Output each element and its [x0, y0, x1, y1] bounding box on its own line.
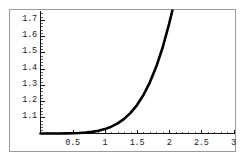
- y-tick-label: 1.4: [8, 64, 37, 73]
- y-tick-label: 1.1: [8, 112, 37, 121]
- x-tick-label: 1.5: [125, 139, 149, 148]
- x-tick-label: 0.5: [61, 139, 85, 148]
- x-tick-label: 3: [222, 139, 246, 148]
- y-tick-label: 1.5: [8, 47, 37, 56]
- plot-figure: 1.11.21.31.41.51.61.7 0.511.522.53: [0, 0, 246, 159]
- x-tick-label: 2.5: [189, 139, 213, 148]
- y-tick-label: 1.6: [8, 31, 37, 40]
- x-tick-label: 2: [157, 139, 181, 148]
- minor-tick-group: [41, 14, 228, 134]
- data-curve: [41, 11, 173, 134]
- x-tick-label: 1: [93, 139, 117, 148]
- major-tick-group: [41, 21, 235, 134]
- y-tick-label: 1.7: [8, 15, 37, 24]
- y-tick-label: 1.2: [8, 96, 37, 105]
- y-tick-label: 1.3: [8, 80, 37, 89]
